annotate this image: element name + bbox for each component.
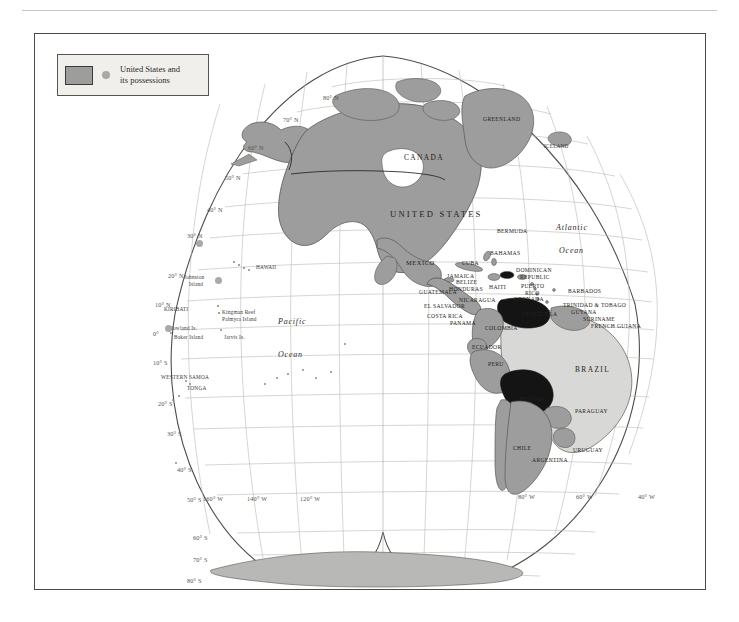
- latitude-label: 30° N: [187, 232, 203, 239]
- country-label: BRAZIL: [575, 365, 610, 374]
- island-label: Howland Is.: [169, 325, 197, 331]
- country-label: BAHAMAS: [490, 250, 520, 256]
- country-label: FRENCH GUIANA: [591, 323, 641, 329]
- country-label: ECUADOR: [472, 344, 502, 350]
- ocean-label: Pacific: [278, 317, 306, 326]
- country-label: COSTA RICA: [427, 313, 463, 319]
- country-label: PERU: [488, 361, 504, 367]
- country-label: BARBADOS: [568, 288, 601, 294]
- country-label: GREENLAND: [483, 116, 520, 122]
- ocean-label: Ocean: [559, 246, 584, 255]
- country-label: COLOMBIA: [485, 325, 518, 331]
- latitude-label: 40° S: [177, 466, 192, 473]
- island-label: Kingman Reef: [222, 309, 255, 315]
- ocean-label: Ocean: [278, 350, 303, 359]
- map-frame: 80° N70° N60° N50° N40° N30° N20° N10° N…: [34, 33, 706, 590]
- longitude-label: 120° W: [300, 495, 320, 502]
- country-label: URUGUAY: [573, 447, 603, 453]
- legend-color-swatch: [65, 66, 93, 85]
- island-label: Johnston: [184, 274, 204, 280]
- legend-label-line2: its possessions: [120, 75, 180, 86]
- legend-label-line1: United States and: [120, 64, 180, 75]
- island-label: HAWAII: [256, 264, 276, 270]
- island-label: Jarvis Is.: [224, 334, 245, 340]
- latitude-label: 60° S: [193, 534, 208, 541]
- country-label: EL SALVADOR: [424, 303, 465, 309]
- longitude-label: 40° W: [638, 493, 655, 500]
- latitude-label: 10° S: [153, 359, 168, 366]
- island-label: Island: [189, 281, 203, 287]
- latitude-label: 40° N: [207, 206, 223, 213]
- latitude-label: 60° N: [248, 144, 264, 151]
- us-possession-marker: [215, 277, 222, 284]
- us-possession-marker: [165, 325, 172, 332]
- country-label: PUERTO: [521, 283, 544, 289]
- country-label: GRENADA: [514, 296, 544, 302]
- country-label: MEXICO: [406, 259, 435, 266]
- longitude-label: 160° W: [203, 495, 223, 502]
- map-canvas: 80° N70° N60° N50° N40° N30° N20° N10° N…: [35, 34, 705, 589]
- latitude-label: 70° S: [193, 556, 208, 563]
- latitude-label: 70° N: [283, 116, 299, 123]
- country-label: PARAGUAY: [575, 408, 608, 414]
- country-label: SURINAME: [583, 316, 615, 322]
- country-label: VENEZUELA: [521, 311, 557, 317]
- latitude-label: 30° S: [167, 430, 182, 437]
- latitude-label: 80° S: [187, 577, 202, 584]
- country-label: BOLIVIA: [519, 396, 544, 402]
- ocean-label: Atlantic: [556, 223, 588, 232]
- country-label: HAITI: [489, 284, 506, 290]
- latitude-label: 80° N: [323, 94, 339, 101]
- country-label: CUBA: [462, 260, 479, 266]
- country-label: ICELAND: [544, 143, 569, 149]
- country-label: NICARAGUA: [459, 297, 496, 303]
- island-label: Baker Island: [174, 334, 203, 340]
- latitude-label: 20° N: [168, 272, 184, 279]
- country-label: REPUBLIC: [520, 274, 550, 280]
- map-legend[interactable]: United States and its possessions: [57, 54, 209, 96]
- island-label: TONGA: [187, 385, 206, 391]
- us-possession-marker: [196, 240, 203, 247]
- longitude-label: 80° W: [518, 493, 535, 500]
- longitude-label: 140° W: [247, 495, 267, 502]
- longitude-label: 60° W: [576, 493, 593, 500]
- latitude-label: 50° S: [187, 496, 202, 503]
- legend-label: United States and its possessions: [120, 64, 180, 86]
- country-label: ARGENTINA: [532, 457, 568, 463]
- island-label: Palmyra Island: [222, 316, 257, 322]
- country-label: PANAMA: [450, 320, 476, 326]
- latitude-label: 20° S: [158, 400, 173, 407]
- world-map-graphic: [35, 34, 705, 589]
- country-label: CHILE: [513, 445, 531, 451]
- country-label: BERMUDA: [497, 228, 527, 234]
- country-label: BELIZE: [456, 279, 477, 285]
- country-label: TRINIDAD & TOBAGO: [563, 302, 626, 308]
- country-label: GUATEMALA: [419, 289, 457, 295]
- island-label: WESTERN SAMOA: [161, 374, 209, 380]
- country-label: GUYANA: [571, 309, 597, 315]
- latitude-label: 0°: [153, 330, 159, 337]
- country-label: CANADA: [404, 153, 444, 162]
- island-label: KIRIBATI: [164, 306, 188, 312]
- page-top-rule: [22, 10, 717, 11]
- country-label: UNITED STATES: [390, 209, 483, 219]
- country-label: DOMINICAN: [516, 267, 552, 273]
- legend-dot-swatch: [102, 71, 110, 79]
- latitude-label: 50° N: [225, 174, 241, 181]
